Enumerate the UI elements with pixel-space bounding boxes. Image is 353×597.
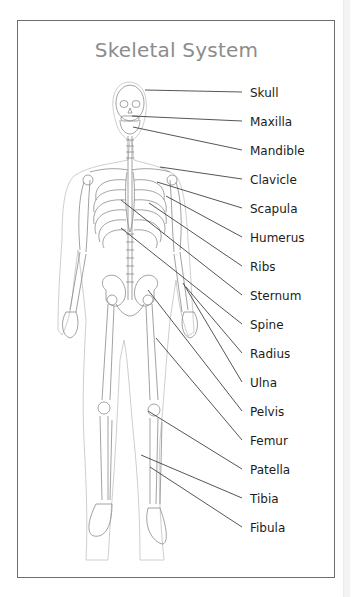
label-patella: Patella	[250, 463, 290, 477]
label-humerus: Humerus	[250, 231, 305, 245]
label-femur: Femur	[250, 434, 288, 448]
label-spine: Spine	[250, 318, 284, 332]
label-skull: Skull	[250, 86, 278, 100]
label-pelvis: Pelvis	[250, 405, 284, 419]
label-scapula: Scapula	[250, 202, 297, 216]
label-ulna: Ulna	[250, 376, 277, 390]
label-maxilla: Maxilla	[250, 115, 292, 129]
label-fibula: Fibula	[250, 521, 285, 535]
label-ribs: Ribs	[250, 260, 276, 274]
label-radius: Radius	[250, 347, 290, 361]
label-sternum: Sternum	[250, 289, 301, 303]
label-clavicle: Clavicle	[250, 173, 297, 187]
label-tibia: Tibia	[250, 492, 279, 506]
label-mandible: Mandible	[250, 144, 305, 158]
